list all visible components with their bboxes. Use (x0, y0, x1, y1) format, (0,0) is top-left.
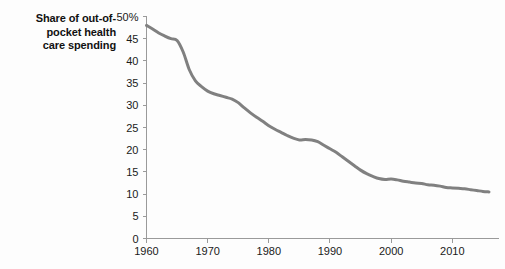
x-tick-label: 1960 (134, 245, 158, 257)
x-axis: 196019701980199020002010 (134, 239, 499, 257)
y-tick-label: 15 (126, 166, 138, 178)
x-tick-label: 2010 (440, 245, 464, 257)
y-tick-label: 5 (132, 210, 138, 222)
y-axis: 05101520253035404550% (116, 11, 146, 245)
chart-root: Share of out-of- pocket health care spen… (0, 0, 505, 269)
y-tick-label: 50% (116, 11, 138, 23)
x-tick-label: 1980 (257, 245, 281, 257)
series-line (147, 25, 490, 192)
y-tick-label: 35 (126, 77, 138, 89)
y-tick-label: 40 (126, 55, 138, 67)
x-tick-label: 2000 (379, 245, 403, 257)
y-tick-label: 25 (126, 122, 138, 134)
y-tick-label: 30 (126, 99, 138, 111)
x-tick-label: 1970 (195, 245, 219, 257)
y-tick-label: 20 (126, 144, 138, 156)
y-tick-label: 10 (126, 188, 138, 200)
data-series-group (147, 25, 490, 192)
y-tick-label: 0 (132, 233, 138, 245)
y-tick-label: 45 (126, 33, 138, 45)
x-tick-label: 1990 (318, 245, 342, 257)
line-chart-plot: 05101520253035404550% 196019701980199020… (0, 0, 505, 269)
